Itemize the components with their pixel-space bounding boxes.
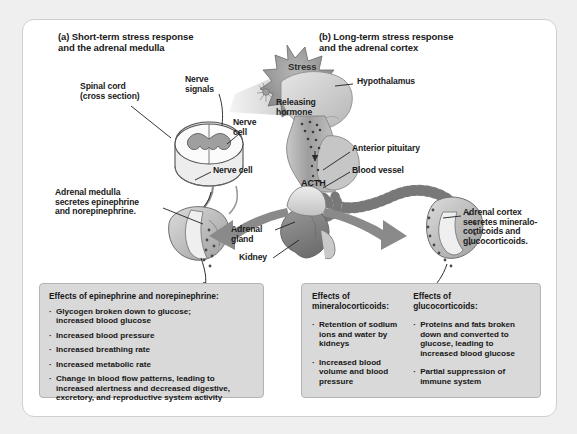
- effects-bullet: ·Partial suppression of immune system: [413, 367, 532, 386]
- bullet-dot-icon: ·: [312, 358, 319, 387]
- effects-box-corticoids: Effects of mineralocorticoids: ·Retentio…: [301, 283, 541, 398]
- figure-panel: (a) Short-term stress response and the a…: [22, 19, 557, 417]
- effects-column-glucocorticoids: Effects of glucocorticoids: ·Proteins an…: [409, 284, 540, 397]
- bullet-dot-icon: ·: [49, 360, 56, 370]
- effects-box-epinephrine: Effects of epinephrine and norepinephrin…: [39, 283, 264, 398]
- effects-heading: Effects of epinephrine and norepinephrin…: [49, 292, 254, 302]
- effects-heading: Effects of mineralocorticoids:: [312, 292, 405, 311]
- effects-bullet: ·Increased breathing rate: [49, 345, 254, 355]
- bullet-dot-icon: ·: [312, 320, 319, 349]
- effects-heading: Effects of glucocorticoids:: [413, 292, 532, 311]
- bullet-dot-icon: ·: [49, 307, 56, 326]
- effects-bullet: ·Retention of sodium ions and water by k…: [312, 320, 405, 349]
- effects-bullet: ·Proteins and fats broken down and conve…: [413, 320, 532, 358]
- bullet-dot-icon: ·: [413, 320, 420, 358]
- bullet-dot-icon: ·: [49, 331, 56, 341]
- bullet-dot-icon: ·: [413, 367, 420, 386]
- effects-bullet: ·Glycogen broken down to glucose; increa…: [49, 307, 254, 326]
- effects-bullet: ·Increased blood pressure: [49, 331, 254, 341]
- effects-bullet: ·Increased blood volume and blood pressu…: [312, 358, 405, 387]
- effects-bullet: ·Increased metabolic rate: [49, 360, 254, 370]
- bullet-dot-icon: ·: [49, 345, 56, 355]
- bullet-dot-icon: ·: [49, 374, 56, 403]
- effects-column-mineralocorticoids: Effects of mineralocorticoids: ·Retentio…: [302, 284, 409, 397]
- effects-bullet: ·Change in blood flow patterns, leading …: [49, 374, 254, 403]
